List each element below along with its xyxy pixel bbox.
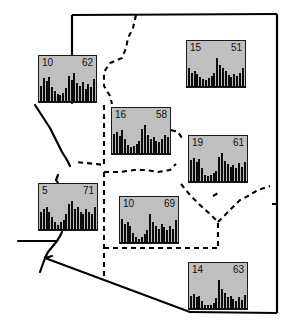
histogram-bar [124,139,126,154]
histogram-bar [129,226,131,243]
panel-central-south[interactable]: 10 69 [119,196,179,244]
histogram-bar [242,68,244,87]
histogram-bar [116,132,118,154]
county-boundary-west-spine [76,105,104,165]
county-boundary-panel-link [171,130,182,138]
histogram-bar [235,168,237,182]
histogram-bar [51,87,53,102]
histogram-bar [216,58,218,87]
histogram-bar [71,80,73,102]
histogram-bar [85,209,87,230]
histogram-bar [239,73,241,87]
colorado-river-lower [56,175,58,183]
panel-se[interactable]: 14 63 [188,262,248,310]
histogram-bar [196,162,198,182]
histogram-bar [82,214,84,230]
histogram-bar [119,136,121,154]
histogram-bar [76,83,78,102]
county-boundary-north-spine [104,15,136,104]
histogram-bar [87,84,89,102]
histogram-bar [193,158,195,182]
histogram-bar [73,73,75,102]
histogram-bar [198,159,200,182]
histogram-bar [188,68,190,87]
histogram-bar [152,222,154,243]
histogram-bar [113,134,115,154]
histogram-bar [40,212,42,230]
histogram-bar [79,86,81,102]
histogram-bar [82,82,84,102]
histogram-bar [164,135,166,154]
histogram-bar [144,125,146,154]
panel-nw[interactable]: 10 62 [38,55,97,103]
histogram-bar [65,214,67,230]
panel-west[interactable]: 5 71 [38,183,98,231]
histogram-bar [190,160,192,182]
panel-central-north-baseline [112,153,170,154]
histogram-bar [121,219,123,243]
histogram-bar [94,207,96,230]
histogram-bar [77,207,79,230]
histogram-bar [90,87,92,102]
panel-east[interactable]: 19 61 [188,135,248,183]
histogram-bar [218,280,220,309]
histogram-bar [227,164,229,182]
histogram-bar [124,224,126,243]
histogram-bar [43,209,45,230]
histogram-bar [65,88,67,102]
panel-ne-bars [187,41,245,87]
east-border-tick-upper [272,203,277,205]
histogram-bar [224,293,226,309]
histogram-bar [244,295,246,309]
panel-central-north-bars [112,108,170,154]
panel-central-south-bars [120,197,178,243]
panel-ne[interactable]: 15 51 [186,40,246,88]
panel-east-baseline [189,181,247,182]
panel-west-bars [39,184,97,230]
histogram-bar [163,227,165,243]
histogram-bar [201,168,203,182]
histogram-bar [158,229,160,243]
histogram-bar [161,139,163,154]
county-boundary-east-fork [181,184,218,232]
county-boundary-east-small [213,192,220,196]
histogram-bar [155,226,157,243]
panel-nw-baseline [39,101,96,102]
histogram-bar [219,65,221,87]
histogram-bar [172,229,174,243]
panel-central-south-baseline [120,242,178,243]
county-boundary-east-vee [218,186,270,222]
arizona-histogram-map-figure: 10 62 15 51 16 58 19 61 5 71 [0,0,290,329]
histogram-bar [147,135,149,154]
histogram-bar [175,220,177,243]
histogram-bar [80,212,82,230]
panel-central-north[interactable]: 16 58 [111,107,171,155]
histogram-bar [68,204,70,230]
mexico-border-group [45,258,190,312]
state-border-north [72,14,277,15]
histogram-bar [93,79,95,102]
histogram-bar [169,226,171,243]
histogram-bar [127,222,129,243]
colorado-river-mid [35,105,70,166]
panel-se-baseline [189,308,247,309]
panel-se-bars [189,263,247,309]
histogram-bar [244,162,246,182]
county-boundary-mid-horizontal [104,164,176,172]
state-border-south [190,312,277,313]
histogram-bar [238,163,240,182]
histogram-bar [91,214,93,230]
histogram-bar [191,73,193,87]
panel-ne-baseline [187,86,245,87]
panel-nw-bars [39,56,96,102]
histogram-bar [74,209,76,230]
histogram-bar [161,224,163,243]
histogram-bar [150,139,152,154]
histogram-bar [153,137,155,154]
histogram-bar [218,157,220,182]
histogram-bar [241,167,243,182]
histogram-bar [48,212,50,230]
western-boundary-notch [18,232,62,241]
panel-west-baseline [39,229,97,230]
histogram-bar [167,137,169,154]
